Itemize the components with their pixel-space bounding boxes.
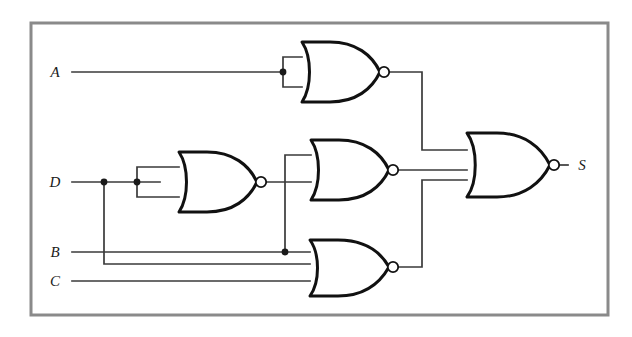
gate-g1-bubble — [379, 67, 389, 77]
logic-circuit-diagram: A D B C S — [0, 0, 632, 337]
gate-g4-bubble — [388, 262, 398, 272]
junction-b-branch — [282, 249, 289, 256]
junction-d-tie — [134, 179, 141, 186]
junction-d-branch — [101, 179, 108, 186]
diagram-canvas: A D B C S — [0, 0, 632, 337]
junction-a-tie — [280, 69, 287, 76]
gate-g5-bubble — [549, 160, 559, 170]
gate-g2-bubble — [256, 177, 266, 187]
input-label-b: B — [50, 244, 59, 260]
gate-g3-bubble — [388, 165, 398, 175]
input-label-c: C — [50, 273, 61, 289]
input-label-a: A — [49, 64, 60, 80]
output-label-s: S — [578, 157, 586, 173]
input-label-d: D — [49, 174, 61, 190]
